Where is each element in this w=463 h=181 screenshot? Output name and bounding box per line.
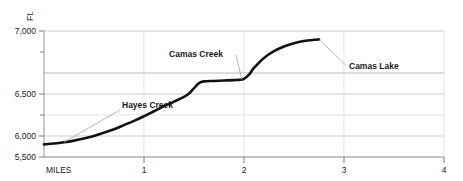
y-tick-label-5500: 5,500 <box>15 152 37 162</box>
y-tick-label-7000: 7,000 <box>15 26 37 36</box>
x-axis-tick-labels: 1 2 3 4 <box>142 165 447 175</box>
x-axis-ticks <box>144 157 444 163</box>
x-tick-label-3: 3 <box>342 165 347 175</box>
camas-creek-leader-line <box>236 55 242 80</box>
y-tick-label-6000: 6,000 <box>15 131 37 141</box>
x-tick-label-4: 4 <box>442 165 447 175</box>
y-axis-ticks <box>39 31 44 157</box>
camas-lake-label: Camas Lake <box>349 61 399 71</box>
x-tick-label-2: 2 <box>242 165 247 175</box>
x-tick-label-1: 1 <box>142 165 147 175</box>
hayes-creek-label: Hayes Creek <box>122 100 173 110</box>
elevation-profile-chart: 7,000 6,500 6,000 5,500 1 2 3 4 Ft. MILE… <box>0 0 463 181</box>
x-axis-title: MILES <box>46 165 72 175</box>
y-tick-label-6500: 6,500 <box>15 89 37 99</box>
y-axis-tick-labels: 7,000 6,500 6,000 5,500 <box>15 26 37 162</box>
annotation-labels: Hayes Creek Camas Creek Camas Lake <box>122 49 399 110</box>
y-axis-title: Ft. <box>25 11 35 21</box>
camas-creek-label: Camas Creek <box>169 49 223 59</box>
chart-canvas: 7,000 6,500 6,000 5,500 1 2 3 4 Ft. MILE… <box>0 0 463 181</box>
camas-lake-leader-line <box>319 39 346 65</box>
